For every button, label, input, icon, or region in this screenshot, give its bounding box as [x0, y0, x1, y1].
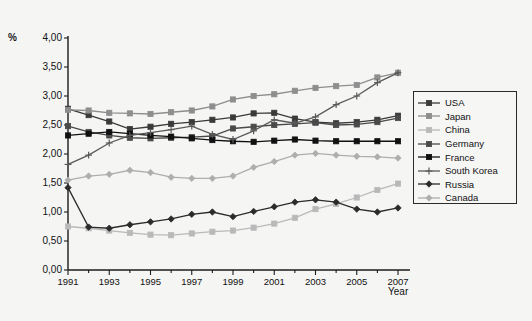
legend-marker-icon	[417, 193, 441, 203]
legend-item-label: France	[445, 152, 475, 163]
series-russia	[65, 184, 401, 231]
legend-item-label: Germany	[445, 138, 484, 149]
legend-item-label: Russia	[445, 179, 474, 190]
legend-item-label: South Korea	[445, 165, 498, 176]
legend-item-canada[interactable]: Canada	[417, 191, 513, 205]
legend-marker-icon	[417, 98, 441, 108]
legend-marker-icon	[417, 125, 441, 135]
legend-item-usa[interactable]: USA	[417, 96, 513, 110]
legend-item-japan[interactable]: Japan	[417, 110, 513, 124]
legend-item-france[interactable]: France	[417, 150, 513, 164]
series-japan	[65, 70, 400, 116]
legend-marker-icon	[417, 179, 441, 189]
legend-item-china[interactable]: China	[417, 123, 513, 137]
legend-item-label: Canada	[445, 192, 478, 203]
legend-item-label: China	[445, 124, 470, 135]
legend-item-label: USA	[445, 97, 465, 108]
chart-legend: USAJapanChinaGermanyFranceSouth KoreaRus…	[413, 91, 517, 204]
legend-marker-icon	[417, 166, 441, 176]
line-chart: % 4,003,503,002,502,001,501,000,500,00 1…	[0, 0, 532, 321]
legend-item-south-korea[interactable]: South Korea	[417, 164, 513, 178]
legend-marker-icon	[417, 139, 441, 149]
legend-item-russia[interactable]: Russia	[417, 178, 513, 192]
legend-marker-icon	[417, 111, 441, 121]
series-canada	[65, 150, 401, 183]
legend-marker-icon	[417, 152, 441, 162]
legend-item-germany[interactable]: Germany	[417, 137, 513, 151]
series-china	[65, 181, 400, 238]
legend-item-label: Japan	[445, 111, 471, 122]
